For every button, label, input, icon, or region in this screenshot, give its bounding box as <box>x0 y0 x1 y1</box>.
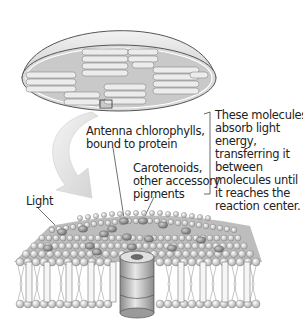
energy-transfer-note: These molecules absorb light energy, tra… <box>215 109 303 213</box>
note-line: reaction center. <box>215 200 303 213</box>
antenna-leader <box>113 148 124 218</box>
chloroplast <box>22 31 216 111</box>
light-label: Light <box>26 195 53 208</box>
antenna-label-line: bound to protein <box>86 138 226 151</box>
reaction-center-protein <box>120 251 154 318</box>
thylakoid-membrane <box>14 210 262 318</box>
antenna-chlorophylls-label: Antenna chlorophylls, bound to protein <box>86 125 226 151</box>
